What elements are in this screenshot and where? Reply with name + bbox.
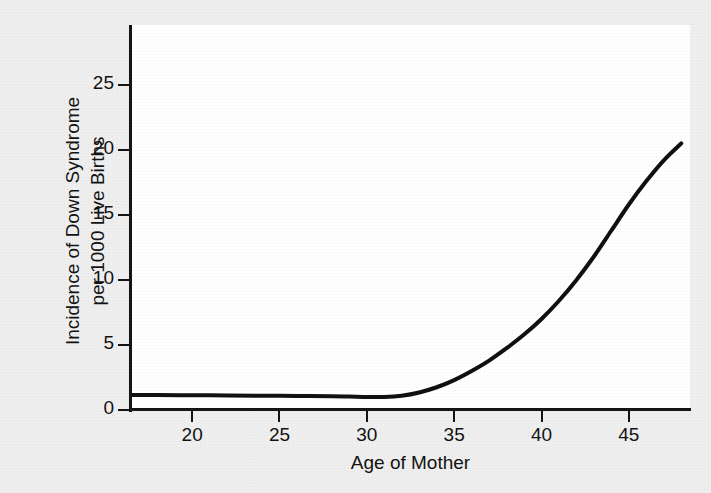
y-tick-mark	[118, 279, 129, 281]
x-tick-mark	[453, 411, 455, 422]
x-tick-label: 35	[429, 424, 479, 446]
y-axis-title-line-1: Incidence of Down Syndrome	[60, 26, 85, 416]
x-tick-mark	[628, 411, 630, 422]
y-axis-title: Incidence of Down Syndrome per 1000 Live…	[60, 26, 110, 416]
x-tick-label: 25	[254, 424, 304, 446]
plot-area	[131, 25, 690, 410]
x-tick-mark	[366, 411, 368, 422]
y-tick-mark	[118, 344, 129, 346]
incidence-curve	[131, 143, 681, 397]
chart-figure: 0510152025 202530354045 Age of Mother In…	[0, 0, 711, 493]
y-tick-mark	[118, 214, 129, 216]
x-tick-mark	[278, 411, 280, 422]
x-tick-label: 40	[517, 424, 567, 446]
y-axis-title-line-2: per 1000 Live Births	[85, 26, 110, 416]
x-tick-label: 30	[342, 424, 392, 446]
x-tick-label: 45	[604, 424, 654, 446]
x-tick-mark	[541, 411, 543, 422]
x-tick-mark	[191, 411, 193, 422]
curve-svg	[131, 25, 690, 410]
y-tick-mark	[118, 84, 129, 86]
x-axis-title: Age of Mother	[131, 452, 690, 474]
y-tick-mark	[118, 149, 129, 151]
x-tick-label: 20	[167, 424, 217, 446]
y-axis-line	[129, 25, 132, 412]
x-axis-line	[129, 408, 691, 411]
y-tick-mark	[118, 409, 129, 411]
